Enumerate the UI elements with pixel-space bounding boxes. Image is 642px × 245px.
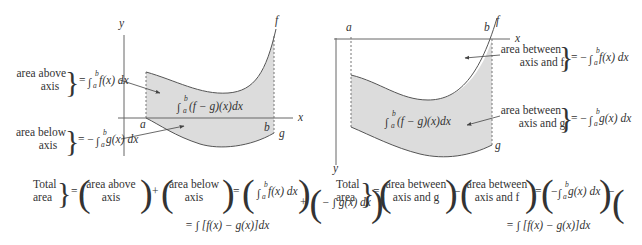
svg-text:axis: axis xyxy=(39,139,58,151)
svg-text:=: = xyxy=(71,185,78,197)
svg-text:a: a xyxy=(262,192,266,201)
svg-text:+: + xyxy=(152,185,159,197)
svg-text:= −: = − xyxy=(78,133,94,145)
svg-text:∫: ∫ xyxy=(256,187,261,200)
svg-text:area: area xyxy=(33,191,52,203)
svg-text:∫: ∫ xyxy=(95,135,100,148)
svg-text:axis and f: axis and f xyxy=(520,56,565,68)
left-curve-g-label: g xyxy=(279,127,285,140)
svg-text:area between: area between xyxy=(467,178,528,190)
svg-text:= −: = − xyxy=(571,51,587,63)
svg-text:b: b xyxy=(392,109,396,118)
svg-text:area above: area above xyxy=(86,178,135,190)
svg-text:area between: area between xyxy=(501,43,562,55)
right-curve-f-label: f xyxy=(496,14,501,27)
svg-text:Total: Total xyxy=(33,178,56,190)
right-result-line: = ∫ [f(x) − g(x)]dx xyxy=(506,219,590,231)
svg-text:f(x) dx: f(x) dx xyxy=(99,74,130,87)
svg-text:axis: axis xyxy=(102,191,121,203)
left-figure: y x a b f g ∫ b a (f − g)(x)dx area abov… xyxy=(16,14,312,215)
left-total-area-equation: Total area } = ( area above axis ) + ( a… xyxy=(33,172,312,215)
svg-text:area above: area above xyxy=(17,67,66,79)
svg-text:a: a xyxy=(391,121,395,130)
left-term4: + (− ∫ g(x) dx) xyxy=(300,181,384,225)
label-area-between-axis-and-g: area between axis and g } = − ∫ b a g(x)… xyxy=(501,101,632,134)
svg-text:axis: axis xyxy=(185,191,204,203)
right-point-b: b xyxy=(484,21,490,33)
left-x-label: x xyxy=(297,111,304,123)
left-curve-f-label: f xyxy=(275,14,280,27)
label-area-above-axis: area above axis } = ∫ b a f(x) dx xyxy=(17,65,130,98)
left-shaded-region xyxy=(146,36,274,147)
svg-text:a: a xyxy=(101,140,105,149)
svg-text:area between: area between xyxy=(501,104,562,116)
svg-text:): ) xyxy=(140,172,153,215)
brace-icon: } xyxy=(57,176,71,209)
svg-text:a: a xyxy=(594,58,598,67)
svg-text:=: = xyxy=(79,74,86,86)
svg-text:axis and g: axis and g xyxy=(393,191,440,204)
svg-text:∫: ∫ xyxy=(87,76,92,89)
svg-text:∫: ∫ xyxy=(588,114,593,127)
label-area-below-axis: area below axis } = − ∫ b a g(x) dx xyxy=(16,124,139,157)
left-point-b: b xyxy=(264,121,270,133)
right-curve-g-label: g xyxy=(495,139,501,152)
svg-text:f(x) dx: f(x) dx xyxy=(268,185,299,198)
right-point-a: a xyxy=(346,21,352,33)
svg-text:area between: area between xyxy=(386,178,447,190)
svg-text:= −: = − xyxy=(571,112,587,124)
svg-text:area below: area below xyxy=(169,178,220,190)
left-y-label: y xyxy=(118,17,125,30)
label-area-between-axis-and-f: area between axis and f } = − ∫ b a f(x)… xyxy=(501,40,630,73)
left-result-line: = ∫ [f(x) − g(x)]dx xyxy=(185,219,269,231)
svg-text:a: a xyxy=(563,192,567,201)
svg-text:a: a xyxy=(183,106,187,115)
svg-text:axis and f: axis and f xyxy=(475,191,520,203)
left-point-a: a xyxy=(140,118,146,130)
right-y-label: y xyxy=(332,162,339,175)
brace-icon: } xyxy=(65,65,79,98)
svg-text:a: a xyxy=(93,81,97,90)
svg-text:g(x) dx: g(x) dx xyxy=(106,133,139,146)
svg-text:∫: ∫ xyxy=(557,187,562,200)
svg-text:b: b xyxy=(184,94,188,103)
svg-text:=: = xyxy=(233,185,240,197)
svg-text:(f − g)(x)dx: (f − g)(x)dx xyxy=(189,100,244,113)
svg-text:g(x) dx: g(x) dx xyxy=(599,112,632,125)
svg-text:axis: axis xyxy=(41,80,60,92)
right-term4: ( xyxy=(612,181,625,225)
svg-text:g(x) dx: g(x) dx xyxy=(568,185,601,198)
svg-text:area below: area below xyxy=(16,126,67,138)
svg-text:a: a xyxy=(594,119,598,128)
svg-text:∫: ∫ xyxy=(588,53,593,66)
svg-text:f(x) dx: f(x) dx xyxy=(599,51,630,64)
svg-text:−: − xyxy=(551,185,558,197)
svg-text:(f − g)(x)dx: (f − g)(x)dx xyxy=(397,115,452,128)
